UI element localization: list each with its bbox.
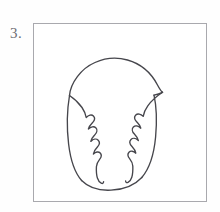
figure-root: 3.: [0, 0, 220, 212]
step-number-label: 3.: [10, 25, 22, 41]
cup-bottom-path: [82, 178, 142, 191]
cup-right-outer-path: [142, 95, 156, 177]
cap-dome-path: [70, 58, 163, 95]
cup-left-outer-path: [67, 96, 81, 181]
drawing-canvas: [33, 23, 207, 202]
right-jagged-flap-path: [126, 92, 163, 182]
